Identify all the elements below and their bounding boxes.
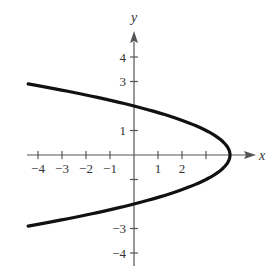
y-tick-label: 3 xyxy=(120,74,127,89)
y-axis-arrow-icon xyxy=(130,31,138,43)
y-tick-label: 4 xyxy=(120,50,127,65)
x-tick-label: 1 xyxy=(155,161,162,176)
y-tick-label: −3 xyxy=(112,221,126,236)
x-tick-label: −4 xyxy=(31,161,45,176)
x-tick-label: 2 xyxy=(179,161,186,176)
y-tick-label: 1 xyxy=(120,123,127,138)
x-tick-label: −3 xyxy=(55,161,69,176)
x-tick-label: −1 xyxy=(103,161,117,176)
x-tick-label: −2 xyxy=(79,161,93,176)
parabola-chart: −4−3−2−112−4−3134 x y xyxy=(0,0,276,273)
y-tick-label: −4 xyxy=(112,246,126,261)
y-axis-label: y xyxy=(129,10,138,25)
axes xyxy=(27,31,256,266)
x-axis-label: x xyxy=(258,148,266,163)
